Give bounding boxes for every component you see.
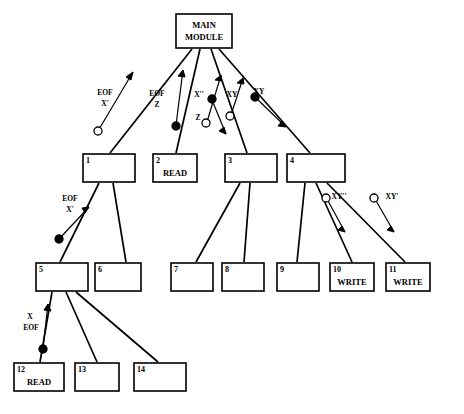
edge-5-to-14: [76, 292, 158, 362]
module-main-label-line2: MODULE: [185, 32, 224, 42]
couple-label-c2-line1: EOF: [149, 89, 165, 98]
couple-label-c7-line1: EOF: [62, 194, 78, 203]
module-4-number: 4: [290, 156, 294, 165]
module-10-number: 10: [333, 265, 341, 274]
module-1[interactable]: 1: [83, 154, 135, 182]
edge-main-to-4: [219, 49, 310, 153]
module-8[interactable]: 8: [222, 263, 264, 291]
couple-marker-filled-circle: [39, 345, 47, 353]
module-11[interactable]: 11 WRITE: [386, 263, 430, 291]
module-12-label: READ: [27, 377, 51, 387]
module-2[interactable]: 2 READ: [153, 154, 197, 182]
edge-main-to-3: [211, 49, 247, 153]
module-5-rect: [36, 263, 88, 291]
module-3-rect: [225, 154, 277, 182]
module-7-number: 7: [174, 265, 178, 274]
couple-label-c6: XY: [254, 87, 265, 96]
edge-5-to-13: [66, 292, 97, 362]
module-1-rect: [83, 154, 135, 182]
module-4[interactable]: 4: [287, 154, 345, 182]
module-12-number: 12: [17, 365, 25, 374]
module-2-number: 2: [156, 156, 160, 165]
module-14[interactable]: 14: [134, 363, 186, 391]
edges-layer: [40, 49, 405, 362]
edge-3-to-7: [196, 183, 240, 262]
module-9[interactable]: 9: [277, 263, 319, 291]
module-11-label: WRITE: [393, 277, 423, 287]
module-13[interactable]: 13: [75, 363, 119, 391]
module-main[interactable]: MAIN MODULE: [176, 14, 232, 48]
module-main-label-line1: MAIN: [192, 20, 216, 30]
couple-xydoubleprime-4to10: XY'': [322, 192, 347, 232]
edge-4-to-9: [297, 183, 305, 262]
couple-label-c2-line2: Z: [154, 100, 159, 109]
couple-label-c5: XY: [227, 90, 238, 99]
couple-marker-open-circle: [94, 127, 102, 135]
module-10[interactable]: 10 WRITE: [330, 263, 374, 291]
module-3-number: 3: [228, 156, 232, 165]
couple-label-c3: X'': [194, 90, 204, 99]
couple-z-main3: Z: [195, 95, 226, 134]
couple-marker-filled-circle: [172, 122, 180, 130]
module-5[interactable]: 5: [36, 263, 88, 291]
couple-x-eof-5to12: X EOF: [23, 304, 51, 353]
module-4-rect: [287, 154, 345, 182]
couple-marker-open-circle: [202, 119, 210, 127]
couple-marker-filled-circle: [208, 95, 216, 103]
couple-label-c8: XY'': [332, 192, 347, 201]
couple-marker-open-circle: [226, 112, 234, 120]
module-6-number: 6: [98, 265, 102, 274]
module-2-label: READ: [163, 168, 187, 178]
module-10-label: WRITE: [337, 277, 367, 287]
couple-eof-xprime-main1: EOF X': [94, 72, 133, 135]
module-9-number: 9: [280, 265, 284, 274]
couples-layer: EOF X' EOF Z X'': [23, 70, 398, 353]
module-1-number: 1: [86, 156, 90, 165]
couple-label-c9: XY': [386, 192, 399, 201]
couple-label-c10-line1: X: [27, 312, 33, 321]
couple-xy-main4: XY: [251, 87, 286, 127]
module-7[interactable]: 7: [171, 263, 213, 291]
couple-marker-open-circle: [322, 194, 330, 202]
edge-3-to-8: [244, 183, 250, 262]
module-13-number: 13: [78, 365, 86, 374]
couple-xyprime-4to11: XY': [370, 192, 398, 232]
module-11-number: 11: [389, 265, 397, 274]
couple-marker-open-circle: [370, 194, 378, 202]
module-3[interactable]: 3: [225, 154, 277, 182]
module-6[interactable]: 6: [95, 263, 141, 291]
module-8-number: 8: [225, 265, 229, 274]
edge-1-to-6: [113, 183, 126, 262]
couple-label-c1-line2: X': [101, 99, 109, 108]
couple-label-c7-line2: X': [66, 205, 74, 214]
module-14-number: 14: [137, 365, 145, 374]
structure-chart-canvas: EOF X' EOF Z X'': [0, 0, 464, 414]
module-12[interactable]: 12 READ: [14, 363, 64, 391]
structure-chart-diagram: EOF X' EOF Z X'': [0, 0, 464, 414]
couple-marker-filled-circle: [55, 235, 63, 243]
couple-eof-xprime-1to5: EOF X': [55, 194, 89, 243]
couple-label-c1-line1: EOF: [97, 88, 113, 97]
couple-label-c10-line2: EOF: [23, 323, 39, 332]
couple-label-c4: Z: [195, 113, 200, 122]
couple-eof-z-main2: EOF Z: [149, 70, 185, 130]
module-5-number: 5: [39, 265, 43, 274]
